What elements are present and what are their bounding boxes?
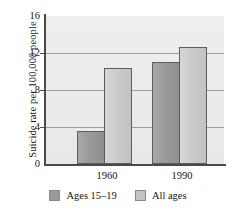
bar-1990-all-ages (179, 47, 207, 164)
legend-item-all-ages: All ages (135, 190, 187, 201)
legend-label-all-ages: All ages (152, 190, 187, 201)
legend-label-ages-15-19: Ages 15–19 (66, 190, 116, 201)
legend-item-ages-15-19: Ages 15–19 (49, 190, 116, 201)
y-tick-label-8: 8 (18, 85, 40, 95)
bar-1960-ages-15-19 (77, 131, 105, 164)
x-axis-line (44, 164, 226, 166)
plot-area (46, 16, 224, 164)
x-tick-label-1960: 1960 (77, 170, 137, 181)
y-tick-label-12: 12 (18, 48, 40, 58)
legend-swatch-all-ages (135, 190, 146, 201)
x-tick-label-1990: 1990 (152, 170, 212, 181)
y-axis-line (44, 14, 46, 166)
y-tick-label-0: 0 (18, 159, 40, 169)
y-tick-label-4: 4 (18, 122, 40, 132)
bar-1990-ages-15-19 (152, 62, 180, 164)
y-tick-label-16: 16 (18, 11, 40, 21)
bar-chart-figure: Suicide rate per 100,000 people 16 12 8 … (0, 0, 236, 218)
bar-1960-all-ages (104, 68, 132, 164)
chart-legend: Ages 15–19 All ages (0, 190, 236, 201)
legend-swatch-ages-15-19 (49, 190, 60, 201)
